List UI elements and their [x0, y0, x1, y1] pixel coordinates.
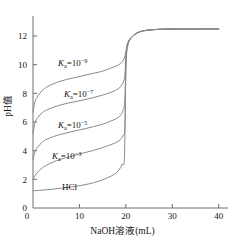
plot-area: 010203040 024681012 Ka=10−9Ka=10−7Ka=10−…	[0, 0, 236, 244]
series-annotation-labels: Ka=10−9Ka=10−7Ka=10−5Ka=10−3HCl	[51, 57, 93, 192]
series-label-4: HCl	[62, 182, 78, 192]
y-axis-title: pH值	[2, 95, 13, 117]
curve-series-group	[33, 29, 219, 191]
y-tick-label: 8	[23, 89, 28, 99]
y-tick-label: 12	[18, 31, 27, 41]
x-tick-label: 30	[168, 211, 178, 221]
x-axis-title: NaOH溶液(mL)	[90, 225, 154, 237]
y-tick-label: 0	[23, 203, 28, 213]
y-tick-label: 2	[23, 175, 28, 185]
x-tick-labels: 010203040	[25, 211, 224, 221]
x-tick-label: 20	[121, 211, 131, 221]
x-tick-label: 10	[75, 211, 85, 221]
x-tick-label: 40	[214, 211, 224, 221]
y-tick-label: 4	[23, 146, 28, 156]
axes-group	[33, 16, 228, 208]
series-label-0: Ka=10−9	[57, 57, 87, 69]
y-tick-labels: 024681012	[18, 31, 28, 213]
series-label-1: Ka=10−7	[63, 88, 93, 100]
y-tick-label: 6	[23, 117, 28, 127]
series-label-3: Ka=10−3	[51, 150, 81, 162]
titration-curve-chart: 010203040 024681012 Ka=10−9Ka=10−7Ka=10−…	[0, 0, 236, 244]
y-tick-label: 10	[18, 60, 28, 70]
